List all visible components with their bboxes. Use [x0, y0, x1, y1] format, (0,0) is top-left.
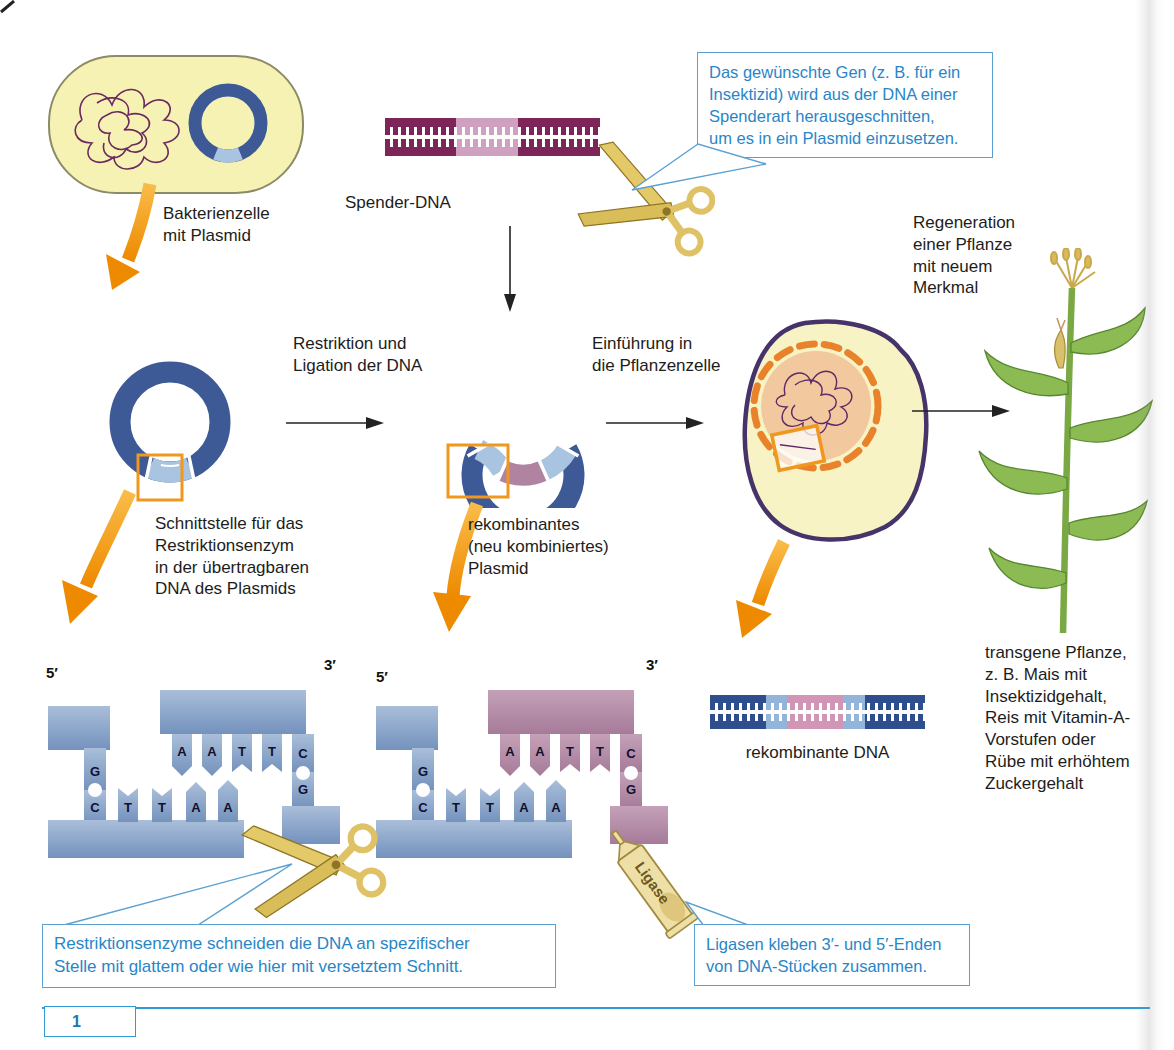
base-letter: G: [298, 782, 308, 797]
dna-midline: [710, 710, 925, 714]
base-letter: T: [452, 800, 460, 815]
base-letter: C: [418, 800, 428, 815]
base-letter: C: [626, 746, 636, 761]
base-letter: T: [158, 800, 166, 815]
donor-dna-label: Spender-DNA: [345, 192, 451, 214]
base-letter: T: [124, 800, 132, 815]
base-letter: C: [90, 800, 100, 815]
corn-ear-icon: [1055, 318, 1065, 368]
base-letter: G: [626, 782, 636, 797]
base-letter: A: [177, 744, 187, 759]
callout-restriction-enzymes: Restriktionsenzyme schneiden die DNA an …: [42, 924, 556, 988]
base-letter: T: [566, 744, 574, 759]
cut-site-label: Schnittstelle für das Restriktionsenzym …: [155, 513, 309, 600]
orange-curved-arrow: [52, 486, 162, 628]
base-letter: T: [596, 744, 604, 759]
flow-arrow-right: [286, 412, 386, 434]
base-letter: A: [551, 800, 561, 815]
base-letter: G: [418, 764, 428, 779]
tassel-icon: [1051, 248, 1095, 288]
plasmid-cut-site: [95, 348, 245, 506]
dna-midline: [385, 135, 600, 139]
base-letter: T: [238, 744, 246, 759]
bacterial-cell: [48, 55, 304, 194]
maize-plant: [975, 248, 1160, 640]
base-letter: A: [207, 744, 217, 759]
callout-tail: [628, 138, 773, 200]
base-letter: A: [519, 800, 529, 815]
page-edge-shadow: [1136, 0, 1166, 1050]
flow-arrow-right: [606, 412, 706, 434]
plasmid-insert-highlight: [772, 426, 824, 471]
base-letter: G: [90, 764, 100, 779]
figure-number-badge: 1: [44, 1006, 136, 1037]
callout-ligases: Ligasen kleben 3′- und 5′-Enden von DNA-…: [694, 924, 970, 986]
callout-tail: [58, 858, 308, 928]
orange-curved-arrow: [722, 538, 817, 640]
introduction-label: Einführung in die Pflanzenzelle: [592, 333, 721, 377]
flow-arrow-down: [500, 226, 520, 314]
restriction-ligation-label: Restriktion und Ligation der DNA: [293, 333, 422, 377]
diagram-canvas: Bakterienzelle mit Plasmid Spender-DNA D…: [0, 0, 1174, 1050]
base-letter: T: [268, 744, 276, 759]
recombinant-plasmid-label: rekombinantes (neu kombiniertes) Plasmid: [468, 514, 609, 579]
plasmid-ring-icon: [178, 71, 282, 179]
figure-rule: [42, 1007, 1150, 1009]
bacteria-label: Bakterienzelle mit Plasmid: [163, 203, 270, 247]
base-letter: C: [298, 746, 308, 761]
base-letter: A: [505, 744, 515, 759]
recombinant-dna-label: rekombinante DNA: [705, 742, 930, 764]
base-letter: A: [535, 744, 545, 759]
recombinant-plasmid: [440, 348, 612, 508]
plant-cell: [735, 315, 940, 555]
scan-artifact-tick: [0, 0, 18, 14]
base-letter: A: [191, 800, 201, 815]
recombinant-dna-strand: [710, 695, 925, 729]
base-letter: T: [486, 800, 494, 815]
transgenic-plant-label: transgene Pflanze, z. B. Mais mit Insekt…: [985, 642, 1130, 794]
